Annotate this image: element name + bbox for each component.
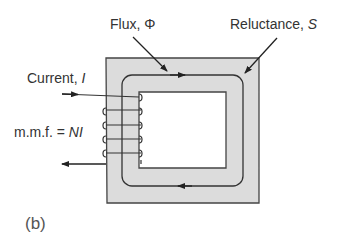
magnetic-core [106,58,259,203]
reluctance-label: Reluctance, S [230,16,317,32]
panel-label: (b) [25,214,46,234]
mmf-label: m.m.f. = NI [14,124,83,140]
current-label: Current, I [27,70,85,86]
current-in-arrow [62,94,78,95]
flux-label: Flux, Φ [110,16,155,32]
reluctance-leader-arrow [245,38,277,73]
